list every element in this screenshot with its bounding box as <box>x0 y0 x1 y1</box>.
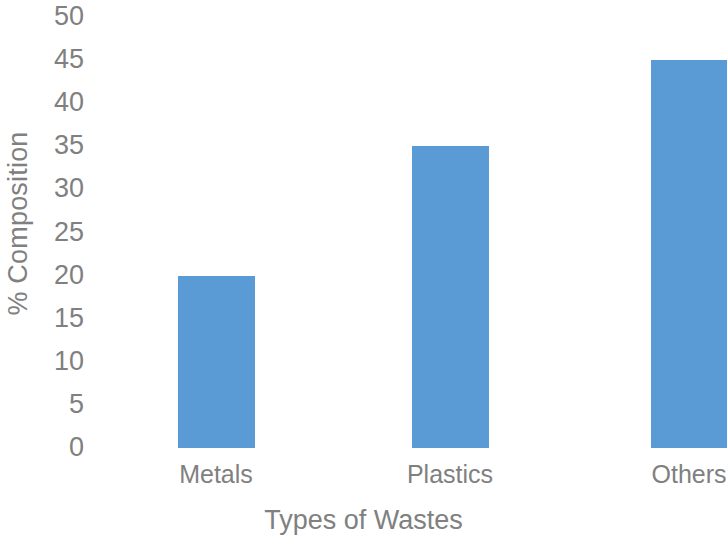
x-axis-tick-label: Metals <box>179 458 253 491</box>
bar-plastics[interactable] <box>412 146 489 448</box>
y-axis-tick-label: 35 <box>54 132 84 159</box>
y-axis-title-text: % Composition <box>3 131 34 315</box>
y-axis-tick-label: 50 <box>54 3 84 30</box>
x-axis-tick-labels: MetalsPlasticsOthers <box>0 458 727 498</box>
y-axis-tick-label: 40 <box>54 89 84 116</box>
y-axis-tick-label: 25 <box>54 218 84 245</box>
plot-area <box>92 0 727 448</box>
y-axis-tick-label: 10 <box>54 347 84 374</box>
y-axis-tick-label: 0 <box>69 434 84 461</box>
bar-metals[interactable] <box>178 276 255 448</box>
y-axis-tick-label: 15 <box>54 304 84 331</box>
x-axis-tick-label: Others <box>651 458 726 491</box>
bar-others[interactable] <box>651 60 727 448</box>
x-axis-title: Types of Wastes <box>0 505 727 536</box>
y-axis-tick-label: 20 <box>54 261 84 288</box>
x-axis-tick-label: Plastics <box>407 458 493 491</box>
y-axis-tick-label: 5 <box>69 390 84 417</box>
y-axis-tick-label: 30 <box>54 175 84 202</box>
bar-chart: % Composition 50454035302520151050 Metal… <box>0 0 727 544</box>
y-axis-tick-labels: 50454035302520151050 <box>36 0 92 464</box>
y-axis-tick-label: 45 <box>54 46 84 73</box>
y-axis-title: % Composition <box>0 0 36 447</box>
